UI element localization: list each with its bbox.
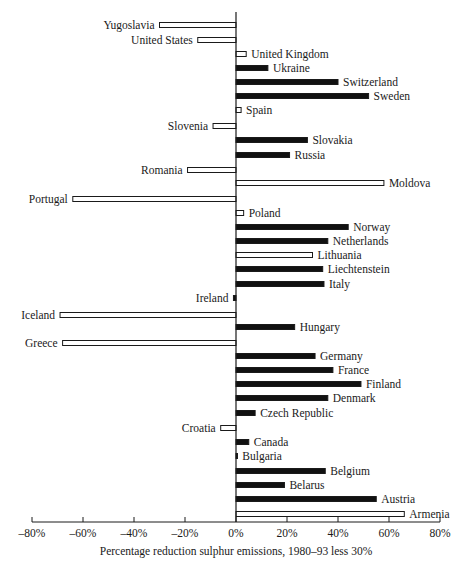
- bar-canada: [236, 440, 249, 445]
- bar-iceland: [60, 313, 236, 318]
- bar-moldova: [236, 181, 384, 186]
- bar-belgium: [236, 469, 325, 474]
- bar-label: Greece: [25, 337, 58, 349]
- bar-austria: [236, 497, 376, 502]
- bar-norway: [236, 225, 348, 230]
- bar-label: Denmark: [333, 392, 376, 404]
- bar-label: Croatia: [182, 422, 216, 434]
- bar-label: Liechtenstein: [328, 263, 390, 275]
- bar-yugoslavia: [160, 23, 237, 28]
- bar-france: [236, 368, 333, 373]
- x-tick-label: 60%: [378, 527, 400, 539]
- bar-label: Netherlands: [333, 235, 389, 247]
- bar-label: United States: [131, 34, 193, 46]
- bar-label: Armenia: [409, 508, 449, 520]
- bar-label: Finland: [366, 378, 401, 390]
- bar-spain: [236, 108, 241, 113]
- bar-label: United Kingdom: [251, 48, 329, 61]
- x-axis: –80%–60%–40%–20%0%20%40%60%80%: [18, 517, 451, 539]
- bar-greece: [63, 341, 236, 346]
- bar-label: Italy: [329, 278, 350, 291]
- bar-liechtenstein: [236, 267, 323, 272]
- bar-label: Romania: [141, 164, 183, 176]
- bar-label: Norway: [353, 221, 390, 234]
- bar-italy: [236, 282, 324, 287]
- bar-label: Moldova: [389, 177, 431, 189]
- bar-finland: [236, 382, 361, 387]
- bar-chart: YugoslaviaUnited StatesUnited KingdomUkr…: [0, 0, 469, 575]
- bar-label: France: [338, 364, 369, 376]
- bar-label: Iceland: [21, 309, 55, 321]
- bar-germany: [236, 354, 315, 359]
- bar-croatia: [221, 426, 236, 431]
- bar-slovakia: [236, 138, 307, 143]
- bar-label: Russia: [295, 149, 326, 161]
- x-tick-label: –80%: [18, 527, 46, 539]
- bar-united-kingdom: [236, 52, 246, 57]
- bar-label: Spain: [246, 104, 272, 117]
- x-tick-label: 80%: [429, 527, 451, 539]
- bar-label: Portugal: [29, 193, 68, 206]
- bar-label: Austria: [381, 493, 415, 505]
- bar-label: Slovakia: [312, 134, 352, 146]
- bar-label: Bulgaria: [242, 450, 282, 463]
- x-tick-label: –20%: [171, 527, 199, 539]
- x-tick-label: 0%: [228, 527, 244, 539]
- bar-label: Sweden: [374, 90, 411, 102]
- bar-sweden: [236, 94, 369, 99]
- bar-denmark: [236, 396, 328, 401]
- bar-lithuania: [236, 253, 313, 258]
- bar-label: Germany: [320, 350, 363, 363]
- bar-label: Lithuania: [318, 249, 362, 261]
- bar-netherlands: [236, 239, 328, 244]
- bar-label: Czech Republic: [260, 407, 333, 420]
- bar-armenia: [236, 512, 404, 517]
- bar-ukraine: [236, 66, 268, 71]
- bar-label: Yugoslavia: [103, 19, 154, 32]
- x-tick-label: 20%: [276, 527, 298, 539]
- bar-switzerland: [236, 80, 338, 85]
- bar-label: Slovenia: [168, 120, 208, 132]
- bar-poland: [236, 211, 244, 216]
- bar-romania: [188, 168, 236, 173]
- bar-label: Canada: [254, 436, 288, 448]
- bar-russia: [236, 153, 290, 158]
- bar-czech-republic: [236, 411, 255, 416]
- bar-portugal: [73, 197, 236, 202]
- bar-label: Ukraine: [273, 62, 310, 74]
- x-tick-label: –40%: [120, 527, 148, 539]
- bar-united-states: [198, 38, 236, 43]
- bar-label: Poland: [249, 207, 281, 219]
- bars-group: YugoslaviaUnited StatesUnited KingdomUkr…: [21, 19, 449, 520]
- bar-hungary: [236, 325, 295, 330]
- bar-label: Belgium: [330, 465, 370, 478]
- bar-belarus: [236, 483, 284, 488]
- x-axis-label: Percentage reduction sulphur emissions, …: [100, 545, 373, 558]
- bar-label: Ireland: [196, 292, 229, 304]
- bar-label: Belarus: [289, 479, 325, 491]
- bar-label: Hungary: [300, 321, 340, 334]
- x-tick-label: 40%: [327, 527, 349, 539]
- bar-label: Switzerland: [343, 76, 398, 88]
- bar-slovenia: [213, 124, 236, 129]
- x-tick-label: –60%: [69, 527, 97, 539]
